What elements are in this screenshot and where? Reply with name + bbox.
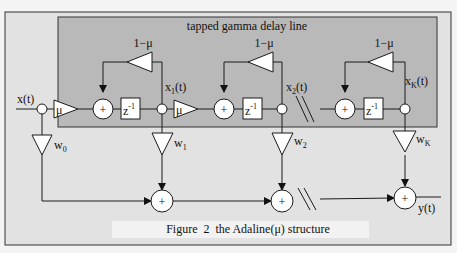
plus-sign: + xyxy=(159,195,166,209)
plus-sign: + xyxy=(402,192,409,206)
inner-box-title: tapped gamma delay line xyxy=(187,19,307,33)
plus-sign: + xyxy=(342,103,349,117)
input-label: x(t) xyxy=(17,92,34,106)
one-minus-mu-label-2: 1−μ xyxy=(254,36,273,50)
one-minus-mu-label-K: 1−μ xyxy=(374,36,393,50)
figure-caption: Figure 2 the Adaline(μ) structure xyxy=(166,222,330,236)
one-minus-mu-label-1: 1−μ xyxy=(133,36,152,50)
tap-node-x2 xyxy=(277,104,287,114)
mu-label-1: μ xyxy=(176,103,182,117)
plus-sign: + xyxy=(221,103,228,117)
plus-sign: + xyxy=(279,195,286,209)
output-label: y(t) xyxy=(418,201,435,215)
mu-label-0: μ xyxy=(56,103,62,117)
tap-label-xK: xK(t) xyxy=(405,74,428,90)
tap-label-x2: x2(t) xyxy=(286,80,307,96)
tap-node-xK xyxy=(400,104,410,114)
adaline-diagram: tapped gamma delay line xyxy=(0,0,457,253)
input-node xyxy=(37,104,47,114)
plus-sign: + xyxy=(100,103,107,117)
tap-label-x1: x1(t) xyxy=(165,80,186,96)
tap-node-x1 xyxy=(157,104,167,114)
